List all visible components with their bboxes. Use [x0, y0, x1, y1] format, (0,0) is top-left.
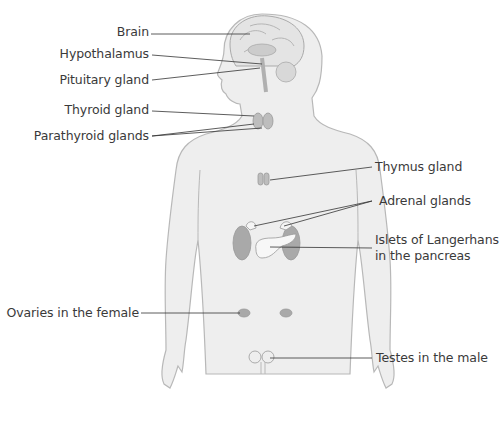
label-pituitary: Pituitary gland — [59, 73, 149, 87]
label-parathyroid: Parathyroid glands — [34, 129, 149, 143]
label-testes: Testes in the male — [376, 351, 488, 365]
label-thymus: Thymus gland — [375, 160, 462, 174]
label-hypothalamus: Hypothalamus — [60, 47, 149, 61]
label-brain: Brain — [117, 25, 149, 39]
label-adrenal: Adrenal glands — [379, 194, 471, 208]
left-kidney — [233, 226, 251, 260]
leader-thyroid — [152, 111, 254, 116]
label-islets-line1: Islets of Langerhans — [375, 233, 499, 247]
right-ovary — [280, 309, 292, 317]
endocrine-diagram: Brain Hypothalamus Pituitary gland Thyro… — [0, 0, 502, 422]
label-islets-line2: in the pancreas — [375, 249, 470, 263]
label-thyroid: Thyroid gland — [65, 103, 149, 117]
label-ovaries: Ovaries in the female — [6, 306, 139, 320]
